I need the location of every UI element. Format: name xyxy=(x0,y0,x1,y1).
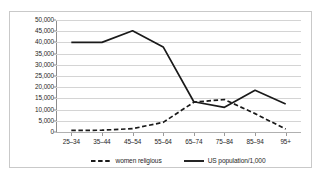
x-axis-tick-mark xyxy=(102,133,103,136)
series-line-2 xyxy=(71,31,285,108)
x-axis-tick-label: 45–54 xyxy=(124,139,141,145)
y-axis-tick-label: 15,000 xyxy=(10,95,54,101)
series-lines xyxy=(56,20,301,132)
chart-container: 50,00045,00040,00035,00030,00025,00020,0… xyxy=(9,11,312,168)
y-axis-tick-label: 40,000 xyxy=(10,39,54,45)
legend-item[interactable]: US population/1,000 xyxy=(184,158,266,165)
y-axis-tick-label: 10,000 xyxy=(10,106,54,112)
x-axis-tick-mark xyxy=(71,133,72,136)
x-axis-tick-label: 85–94 xyxy=(246,139,263,145)
y-axis-tick-label: 30,000 xyxy=(10,62,54,68)
x-axis-tick-label: 35–44 xyxy=(93,139,110,145)
chart-legend: women religiousUS population/1,000 xyxy=(56,155,301,167)
y-axis-tick-label: 50,000 xyxy=(10,17,54,23)
x-axis-tick-label: 65–74 xyxy=(185,139,202,145)
x-axis-ticks xyxy=(56,133,301,137)
legend-item[interactable]: women religious xyxy=(91,158,161,165)
y-axis-tick-label: 0 xyxy=(10,129,54,135)
x-axis-tick-label: 95+ xyxy=(280,139,291,145)
y-axis-labels: 50,00045,00040,00035,00030,00025,00020,0… xyxy=(10,20,54,132)
x-axis-tick-mark xyxy=(163,133,164,136)
y-axis-tick-label: 5,000 xyxy=(10,118,54,124)
legend-swatch-dashed xyxy=(91,159,111,163)
x-axis-tick-mark xyxy=(133,133,134,136)
plot-area xyxy=(56,20,301,132)
x-axis-tick-mark xyxy=(255,133,256,136)
x-axis-tick-label: 25–34 xyxy=(63,139,80,145)
x-axis-tick-mark xyxy=(224,133,225,136)
x-axis-tick-label: 55–64 xyxy=(155,139,172,145)
y-axis-tick-label: 35,000 xyxy=(10,50,54,56)
legend-label: women religious xyxy=(115,158,161,165)
legend-label: US population/1,000 xyxy=(208,158,266,165)
series-line-1 xyxy=(71,100,285,131)
x-axis-tick-mark xyxy=(286,133,287,136)
x-axis-tick-label: 75–84 xyxy=(216,139,233,145)
y-axis-tick-label: 25,000 xyxy=(10,73,54,79)
x-axis-tick-mark xyxy=(194,133,195,136)
legend-swatch-solid xyxy=(184,159,204,163)
x-axis-labels: 25–3435–4445–5455–6465–7475–8485–9495+ xyxy=(56,139,301,150)
y-axis-tick-label: 20,000 xyxy=(10,84,54,90)
y-axis-tick-label: 45,000 xyxy=(10,28,54,34)
